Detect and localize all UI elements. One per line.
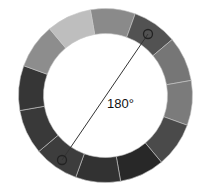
angle-label: 180° (107, 96, 134, 111)
color-wheel: 180° (0, 0, 207, 195)
complement-line (62, 34, 148, 160)
